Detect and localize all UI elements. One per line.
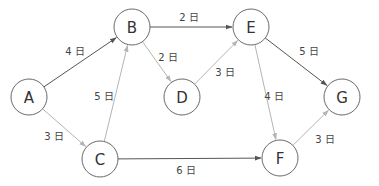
node-e: E — [233, 9, 269, 45]
edge-d-e — [195, 41, 238, 85]
edge-label-c-b: 5 日 — [94, 91, 114, 102]
node-g: G — [324, 79, 360, 115]
node-f: F — [262, 140, 298, 176]
node-label: A — [24, 89, 35, 107]
edge-label-a-b: 4 日 — [65, 46, 85, 57]
edge-label-f-g: 3 日 — [315, 134, 335, 145]
node-c: C — [82, 141, 118, 177]
node-label: B — [127, 19, 137, 37]
node-label: D — [176, 89, 188, 107]
edge-label-e-g: 5 日 — [299, 46, 319, 57]
node-label: C — [95, 151, 105, 169]
edge-label-d-e: 3 日 — [215, 67, 235, 78]
edge-label-b-e: 2 日 — [179, 12, 199, 23]
node-d: D — [164, 79, 200, 115]
project-network-diagram: 4 日3 日5 日2 日2 日3 日5 日4 日6 日3 日 ABCDEFG — [0, 0, 379, 186]
edge-label-b-d: 2 日 — [158, 52, 178, 63]
node-label: E — [246, 19, 255, 37]
edge-label-a-c: 3 日 — [44, 131, 64, 142]
node-label: G — [336, 89, 348, 107]
edge-label-c-f: 6 日 — [176, 165, 196, 176]
node-label: F — [276, 150, 285, 168]
nodes-layer: ABCDEFG — [11, 9, 360, 177]
edge-c-f — [118, 158, 261, 159]
edge-label-e-f: 4 日 — [264, 91, 284, 102]
node-b: B — [114, 9, 150, 45]
node-a: A — [11, 79, 47, 115]
